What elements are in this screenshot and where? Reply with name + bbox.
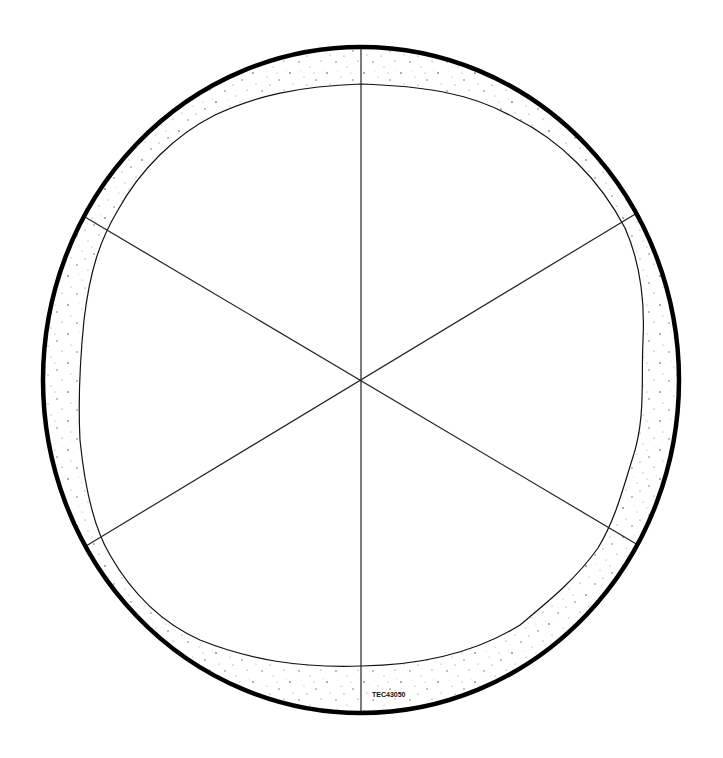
pie-diagram: TEC43050 (0, 0, 723, 758)
figure-label: TEC43050 (372, 691, 406, 698)
